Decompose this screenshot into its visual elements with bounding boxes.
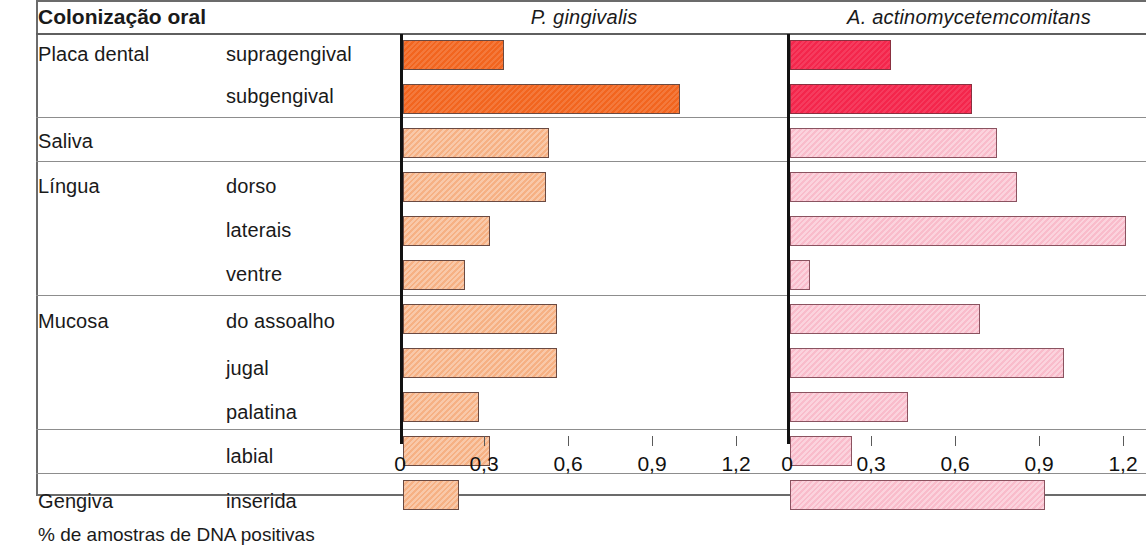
plot-panel-a-actinomycetemcomitans: 00,30,60,91,2 xyxy=(787,34,1132,474)
bar-fill xyxy=(790,304,980,334)
bar-pg-inserida xyxy=(403,480,459,510)
row-label-subgengival: subgengival xyxy=(226,74,392,118)
bar-fill xyxy=(403,480,459,510)
bar-aa-labial xyxy=(790,436,852,466)
row-group-gengiva: Gengiva xyxy=(36,478,226,524)
bar-fill xyxy=(790,436,852,466)
row-group-blank-4 xyxy=(36,346,226,390)
bar-fill xyxy=(790,40,891,70)
bar-aa-saliva xyxy=(790,128,997,158)
bar-pg-subgengival xyxy=(403,84,680,114)
bar-pg-laterais xyxy=(403,216,490,246)
x-tick-aa-2 xyxy=(955,436,956,446)
page-title: Colonização oral xyxy=(36,0,392,34)
x-tick-label-aa-0: 0 xyxy=(781,452,793,476)
bar-pg-supragengival xyxy=(403,40,504,70)
axis-caption: % de amostras de DNA positivas xyxy=(36,524,392,546)
bar-pg-do-assoalho xyxy=(403,304,557,334)
bar-fill xyxy=(790,84,972,114)
x-tick-aa-1 xyxy=(871,436,872,446)
bar-aa-laterais xyxy=(790,216,1126,246)
bar-fill xyxy=(790,392,908,422)
x-tick-label-pg-0: 0 xyxy=(394,452,406,476)
bar-fill xyxy=(403,84,680,114)
row-label-labial: labial xyxy=(226,434,392,478)
x-tick-label-pg-1: 0,3 xyxy=(469,452,498,476)
row-label-saliva xyxy=(226,118,392,164)
row-group-mucosa: Mucosa xyxy=(36,296,226,346)
bar-aa-supragengival xyxy=(790,40,891,70)
row-group-saliva: Saliva xyxy=(36,118,226,164)
bar-fill xyxy=(790,260,810,290)
row-label-laterais: laterais xyxy=(226,208,392,252)
row-group-blank-5 xyxy=(36,390,226,434)
x-tick-pg-3 xyxy=(652,436,653,446)
x-tick-label-aa-1: 0,3 xyxy=(856,452,885,476)
x-tick-label-pg-2: 0,6 xyxy=(553,452,582,476)
plot-panel-p-gingivalis: 00,30,60,91,2 xyxy=(400,34,745,474)
x-tick-aa-3 xyxy=(1039,436,1040,446)
x-tick-pg-1 xyxy=(484,436,485,446)
x-tick-pg-2 xyxy=(568,436,569,446)
row-label-dorso: dorso xyxy=(226,164,392,208)
bar-fill xyxy=(790,128,997,158)
bar-fill xyxy=(790,172,1017,202)
row-group-blank-6 xyxy=(36,434,226,478)
row-group-blank-1 xyxy=(36,74,226,118)
bar-fill xyxy=(403,392,479,422)
row-group-blank-3 xyxy=(36,252,226,296)
x-tick-label-aa-3: 0,9 xyxy=(1024,452,1053,476)
bar-fill xyxy=(790,480,1045,510)
bar-fill xyxy=(790,348,1064,378)
row-label-do-assoalho: do assoalho xyxy=(226,296,392,346)
row-label-supragengival: supragengival xyxy=(226,34,392,74)
column-header-p-gingivalis: P. gingivalis xyxy=(392,0,776,34)
bar-aa-palatina xyxy=(790,392,908,422)
bar-aa-do-assoalho xyxy=(790,304,980,334)
bar-fill xyxy=(403,216,490,246)
bar-fill xyxy=(403,172,546,202)
row-label-inserida: inserida xyxy=(226,478,392,524)
x-tick-label-aa-4: 1,2 xyxy=(1108,452,1137,476)
bar-fill xyxy=(790,216,1126,246)
bar-fill xyxy=(403,128,549,158)
x-tick-label-pg-4: 1,2 xyxy=(721,452,750,476)
row-label-palatina: palatina xyxy=(226,390,392,434)
x-tick-pg-4 xyxy=(736,436,737,446)
bar-aa-ventre xyxy=(790,260,810,290)
bar-aa-jugal xyxy=(790,348,1064,378)
x-tick-label-pg-3: 0,9 xyxy=(637,452,666,476)
row-label-ventre: ventre xyxy=(226,252,392,296)
row-group-placa-dental: Placa dental xyxy=(36,34,226,74)
bar-pg-dorso xyxy=(403,172,546,202)
x-tick-aa-4 xyxy=(1123,436,1124,446)
row-label-jugal: jugal xyxy=(226,346,392,390)
bar-pg-jugal xyxy=(403,348,557,378)
column-header-a-actinomycetemcomitans: A. actinomycetemcomitans xyxy=(776,0,1146,34)
bar-aa-inserida xyxy=(790,480,1045,510)
row-group-blank-2 xyxy=(36,208,226,252)
bar-pg-ventre xyxy=(403,260,465,290)
bar-fill xyxy=(403,304,557,334)
row-group-lingua: Língua xyxy=(36,164,226,208)
bar-pg-palatina xyxy=(403,392,479,422)
bar-aa-dorso xyxy=(790,172,1017,202)
bar-aa-subgengival xyxy=(790,84,972,114)
bar-pg-saliva xyxy=(403,128,549,158)
bar-fill xyxy=(403,348,557,378)
bar-fill xyxy=(403,260,465,290)
bar-fill xyxy=(403,40,504,70)
x-tick-label-aa-2: 0,6 xyxy=(940,452,969,476)
